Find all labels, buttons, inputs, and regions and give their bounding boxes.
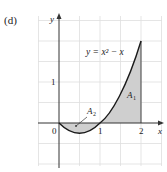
y-axis-arrow-icon <box>57 13 62 19</box>
x-axis-arrow-icon <box>158 121 164 126</box>
a2-subscript: 2 <box>93 111 96 117</box>
tick-label-x1: 1 <box>98 126 103 136</box>
a2-label: A <box>86 106 93 116</box>
chart: y x 0 1 2 1 y = x² − x A 1 A 2 <box>0 0 167 172</box>
a1-label: A <box>126 90 133 100</box>
y-axis-label: y <box>49 14 54 24</box>
curve-label: y = x² − x <box>85 47 125 57</box>
x-axis-label: x <box>157 126 162 136</box>
tick-label-origin: 0 <box>52 126 57 136</box>
grid <box>38 16 162 166</box>
tick-label-y1: 1 <box>51 77 56 87</box>
tick-label-x2: 2 <box>139 126 144 136</box>
a1-subscript: 1 <box>133 95 136 101</box>
